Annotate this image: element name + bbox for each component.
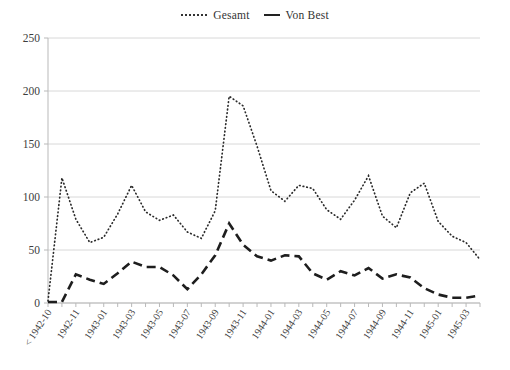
y-axis-group: 050100150200250: [23, 32, 48, 309]
x-tick-label-10: 1944-05: [305, 307, 332, 341]
chart-container: Gesamt Von Best 050100150200250 < 1942-1…: [0, 0, 510, 370]
x-tick-label-5: 1943-07: [166, 307, 193, 341]
chart-plot-area: 050100150200250 < 1942-101942-111943-011…: [0, 0, 510, 370]
y-tick-label-100: 100: [23, 191, 41, 203]
x-tick-label-3: 1943-03: [110, 307, 137, 341]
x-tick-label-13: 1944-11: [389, 307, 416, 341]
x-tick-label-1: 1942-11: [54, 307, 81, 341]
x-tick-label-15: 1945-03: [444, 307, 471, 341]
y-tick-label-0: 0: [34, 297, 40, 309]
x-tick-label-12: 1944-09: [361, 307, 388, 341]
x-axis-group: < 1942-101942-111943-011943-031943-05194…: [22, 303, 480, 348]
series-group: [48, 96, 480, 302]
y-tick-label-250: 250: [23, 32, 41, 44]
y-tick-label-50: 50: [29, 244, 41, 256]
x-tick-label-0: < 1942-10: [22, 307, 54, 348]
x-tick-label-7: 1943-11: [222, 307, 249, 341]
series-line-von-best: [48, 224, 480, 302]
x-tick-label-8: 1944-01: [249, 307, 276, 341]
x-tick-label-11: 1944-07: [333, 307, 360, 341]
x-tick-label-4: 1943-05: [138, 307, 165, 341]
gridlines-group: [48, 38, 480, 303]
x-tick-label-6: 1943-09: [194, 307, 221, 341]
y-tick-label-200: 200: [23, 85, 41, 97]
y-tick-label-150: 150: [23, 138, 41, 150]
x-tick-label-2: 1943-01: [82, 307, 109, 341]
x-tick-label-14: 1945-01: [416, 307, 443, 341]
series-line-gesamt: [48, 96, 480, 301]
x-tick-label-9: 1944-03: [277, 307, 304, 341]
